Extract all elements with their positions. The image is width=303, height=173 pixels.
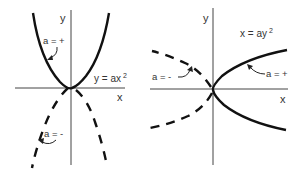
right-negative-arrow-icon [178, 70, 190, 77]
right-positive-label: a = + [266, 68, 288, 79]
left-panel: y x y = ax2 a = + a = - [15, 10, 127, 168]
right-positive-parabola [213, 50, 287, 130]
parabola-diagram: y x y = ax2 a = + a = - y x x = ay2 a = … [0, 0, 303, 173]
left-negative-arrow-icon [42, 140, 56, 144]
left-positive-label: a = + [43, 35, 65, 46]
left-negative-parabola-right [76, 90, 107, 166]
left-negative-label: a = - [44, 128, 63, 139]
left-positive-arrowhead-icon [47, 55, 53, 60]
right-negative-parabola-lower [150, 93, 212, 128]
right-negative-label: a = - [152, 71, 171, 82]
right-positive-arrow-icon [250, 67, 265, 74]
left-x-axis-label: x [117, 91, 123, 103]
right-panel: y x x = ay2 a = + a = - [150, 8, 288, 165]
right-equation: x = ay2 [240, 27, 273, 39]
right-y-axis-label: y [203, 12, 209, 24]
left-equation: y = ax2 [94, 72, 127, 84]
right-x-axis-label: x [280, 93, 286, 105]
left-y-axis-label: y [60, 12, 66, 24]
